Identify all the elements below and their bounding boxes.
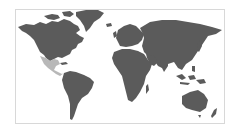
region-arctic-islands[interactable] [44, 11, 74, 20]
region-madagascar[interactable] [146, 84, 149, 94]
region-south-america[interactable] [62, 71, 94, 120]
region-indonesia[interactable] [176, 74, 206, 85]
region-caribbean[interactable] [60, 62, 68, 65]
world-map [0, 0, 240, 139]
region-philippines[interactable] [192, 66, 195, 72]
region-greenland[interactable] [76, 10, 104, 32]
region-new-zealand[interactable] [211, 108, 217, 118]
region-australia[interactable] [182, 90, 208, 112]
region-india[interactable] [160, 60, 168, 72]
region-africa[interactable] [112, 49, 152, 102]
region-iceland[interactable] [106, 23, 112, 27]
region-tasmania[interactable] [198, 115, 201, 118]
region-north-america[interactable] [18, 19, 84, 61]
region-europe[interactable] [116, 24, 144, 47]
